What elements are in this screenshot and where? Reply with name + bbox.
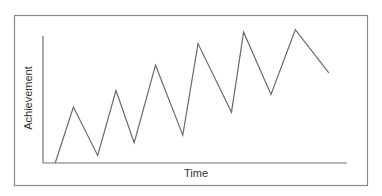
chart-frame <box>15 16 368 186</box>
chart: Achievement Time <box>0 0 382 196</box>
x-axis-label: Time <box>184 167 208 179</box>
y-axis-label: Achievement <box>22 66 34 130</box>
achievement-line <box>55 30 329 163</box>
